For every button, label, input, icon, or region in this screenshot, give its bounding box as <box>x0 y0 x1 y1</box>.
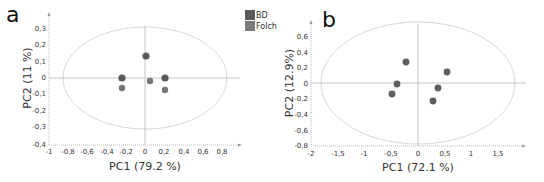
point <box>444 69 451 76</box>
legend-a: BD Folch <box>245 10 277 31</box>
svg-text:-0,2: -0,2 <box>32 107 46 115</box>
svg-text:-0,6: -0,6 <box>294 127 308 135</box>
svg-text:1,5: 1,5 <box>492 150 503 158</box>
svg-text:0: 0 <box>42 74 46 82</box>
x-ticks-a: -1 -0,8 -0,6 -0,4 -0,2 0 0,2 0,4 0,6 0,8 <box>46 148 228 156</box>
svg-text:0,6: 0,6 <box>297 33 309 41</box>
y-ticks-a: 0,3 0,2 0,1 0 -0,1 -0,2 -0,3 -0,4 <box>32 25 46 149</box>
svg-text:-0,2: -0,2 <box>119 148 133 156</box>
panel-b: b 0,6 0,4 0,2 0 -0,2 -0,4 -0,6 -0,8 -2 -… <box>283 7 526 174</box>
y-axis-label-b: PC2 (12.9%) <box>283 49 296 117</box>
point-bd <box>142 52 149 59</box>
panel-label-a: a <box>6 2 19 27</box>
legend-label-folch: Folch <box>256 22 277 31</box>
svg-text:0,2: 0,2 <box>297 64 308 72</box>
svg-text:-0,4: -0,4 <box>100 148 114 156</box>
svg-text:1: 1 <box>469 150 473 158</box>
panel-label-b: b <box>322 7 336 32</box>
point <box>430 98 437 105</box>
svg-text:-0,5: -0,5 <box>384 150 398 158</box>
svg-text:-1: -1 <box>46 148 53 156</box>
svg-text:0,6: 0,6 <box>197 148 209 156</box>
svg-text:-0,2: -0,2 <box>294 95 308 103</box>
point-folch <box>119 85 125 91</box>
svg-text:0,3: 0,3 <box>35 25 46 33</box>
legend-swatch-bd <box>245 10 255 20</box>
svg-text:0: 0 <box>304 80 308 88</box>
svg-text:-0,8: -0,8 <box>61 148 75 156</box>
legend-label-bd: BD <box>256 11 268 20</box>
svg-text:0,8: 0,8 <box>216 148 227 156</box>
point <box>389 91 396 98</box>
point-bd <box>161 74 168 81</box>
panel-a: a 0,3 0,2 0,1 0 -0,1 -0,2 -0,3 -0,4 -1 -… <box>6 2 277 173</box>
svg-text:0,2: 0,2 <box>35 41 46 49</box>
svg-text:0,4: 0,4 <box>297 49 309 57</box>
svg-text:-1: -1 <box>361 150 368 158</box>
svg-text:0,2: 0,2 <box>158 148 169 156</box>
svg-text:-0,4: -0,4 <box>32 141 46 149</box>
data-points-a <box>118 52 168 93</box>
svg-text:-0,4: -0,4 <box>294 111 308 119</box>
svg-text:0,1: 0,1 <box>35 58 46 66</box>
svg-text:-0,3: -0,3 <box>32 123 46 131</box>
svg-text:0,5: 0,5 <box>439 150 450 158</box>
figure: a 0,3 0,2 0,1 0 -0,1 -0,2 -0,3 -0,4 -1 -… <box>0 0 544 182</box>
svg-text:-1,5: -1,5 <box>331 150 345 158</box>
svg-text:0,4: 0,4 <box>178 148 190 156</box>
svg-text:-0,8: -0,8 <box>294 142 308 150</box>
svg-text:0: 0 <box>143 148 147 156</box>
point-bd <box>118 74 125 81</box>
svg-text:0: 0 <box>416 150 420 158</box>
x-ticks-b: -2 -1,5 -1 -0,5 0 0,5 1 1,5 <box>308 150 504 158</box>
point <box>403 59 410 66</box>
y-axis-label-a: PC2 (11 %) <box>21 47 34 108</box>
legend-swatch-folch <box>245 21 255 31</box>
point <box>394 81 401 88</box>
svg-text:-0,1: -0,1 <box>32 90 46 98</box>
point <box>435 85 442 92</box>
x-axis-label-a: PC1 (79.2 %) <box>109 160 181 173</box>
y-ticks-b: 0,6 0,4 0,2 0 -0,2 -0,4 -0,6 -0,8 <box>294 33 308 150</box>
svg-text:-2: -2 <box>308 150 315 158</box>
data-points-b <box>389 59 451 105</box>
point-folch <box>162 87 168 93</box>
x-axis-label-b: PC1 (72.1 %) <box>382 161 454 174</box>
point-folch <box>147 78 153 84</box>
svg-text:-0,6: -0,6 <box>80 148 94 156</box>
